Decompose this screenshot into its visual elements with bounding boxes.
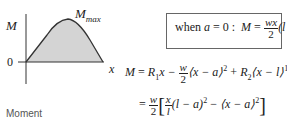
bracket-2: ⟨x − l⟩ — [251, 65, 284, 79]
part-2: ⟨x − a⟩ — [220, 97, 255, 111]
peak-label-sub: max — [86, 14, 101, 24]
fraction: w2 — [179, 62, 188, 85]
fraction: w2 — [149, 94, 158, 117]
tail: (l − x) — [278, 20, 287, 34]
lhs-m: M — [125, 65, 135, 79]
part-1: (l − a) — [172, 97, 203, 111]
equals: = — [254, 20, 261, 34]
boxed-equation-content: when a = 0 : M = wx2(l − x) — [175, 17, 287, 40]
sup-1: 2 — [223, 64, 227, 73]
x-axis-label: x — [109, 62, 114, 77]
equation-1: M = R1x − w2⟨x − a⟩2 + R2⟨x − l⟩1 — [125, 62, 287, 85]
peak-label: Mmax — [75, 6, 101, 24]
sup-2: 1 — [284, 64, 287, 73]
fraction: wx2 — [264, 17, 278, 40]
denominator: 2 — [264, 29, 278, 40]
var-a: a — [204, 20, 210, 34]
eq-zero: = 0 : — [213, 20, 235, 34]
caption: Moment — [6, 108, 42, 119]
minus: − — [210, 97, 217, 111]
x-minus: x − — [159, 65, 175, 79]
denominator: 2 — [149, 106, 158, 117]
sup-1: 2 — [203, 96, 207, 105]
equals: = — [138, 65, 145, 79]
equals: = — [139, 97, 146, 111]
inner-fraction: xl — [165, 94, 172, 117]
denominator: 2 — [179, 74, 188, 85]
inner-denominator: l — [165, 106, 172, 117]
origin-label: 0 — [7, 55, 13, 70]
when-text: when — [175, 20, 201, 34]
moment-area — [26, 19, 103, 62]
equation-2: = w2[xl(l − a)2 − ⟨x − a⟩2] — [139, 94, 266, 117]
plus: + — [230, 65, 237, 79]
moment-diagram — [0, 0, 120, 100]
lhs-m: M — [241, 20, 251, 34]
bracket-1: ⟨x − a⟩ — [188, 65, 223, 79]
y-axis-label: M — [6, 18, 17, 34]
peak-label-main: M — [75, 6, 86, 21]
